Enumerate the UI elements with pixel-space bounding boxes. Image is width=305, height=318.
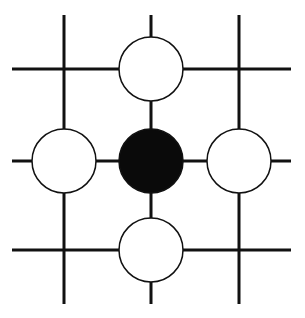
stones <box>32 37 271 282</box>
go-board-diagram <box>0 0 305 318</box>
white-stone-icon <box>119 218 183 282</box>
black-stone-icon <box>119 129 183 193</box>
white-stone-icon <box>207 129 271 193</box>
white-stone-icon <box>119 37 183 101</box>
white-stone-icon <box>32 129 96 193</box>
